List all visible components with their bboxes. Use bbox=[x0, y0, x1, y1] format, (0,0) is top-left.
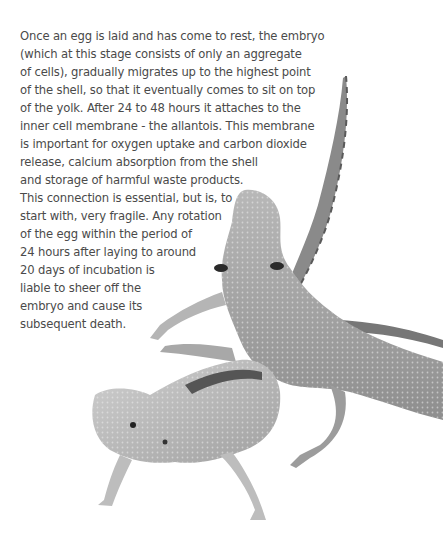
paragraph-line: Once an egg is laid and has come to rest… bbox=[20, 27, 320, 45]
paragraph-line: of the egg within the period of bbox=[20, 225, 320, 243]
paragraph-line: inner cell membrane - the allantois. Thi… bbox=[20, 117, 320, 135]
paragraph-line: of the yolk. After 24 to 48 hours it att… bbox=[20, 99, 320, 117]
paragraph-line: of cells), gradually migrates up to the … bbox=[20, 63, 320, 81]
paragraph-line: subsequent death. bbox=[20, 315, 320, 333]
paragraph-line: (which at this stage consists of only an… bbox=[20, 45, 320, 63]
paragraph-line: release, calcium absorption from the she… bbox=[20, 153, 320, 171]
paragraph-line: of the shell, so that it eventually come… bbox=[20, 81, 320, 99]
paragraph-line: embryo and cause its bbox=[20, 297, 320, 315]
paragraph-line: is important for oxygen uptake and carbo… bbox=[20, 135, 320, 153]
paragraph-line: start with, very fragile. Any rotation bbox=[20, 207, 320, 225]
paragraph-line: 20 days of incubation is bbox=[20, 261, 320, 279]
paragraph-line: liable to sheer off the bbox=[20, 279, 320, 297]
paragraph-line: This connection is essential, but is, to bbox=[20, 189, 320, 207]
paragraph-line: 24 hours after laying to around bbox=[20, 243, 320, 261]
paragraph-line: and storage of harmful waste products. bbox=[20, 171, 320, 189]
document-page: Once an egg is laid and has come to rest… bbox=[0, 0, 443, 543]
body-paragraph: Once an egg is laid and has come to rest… bbox=[20, 27, 320, 333]
